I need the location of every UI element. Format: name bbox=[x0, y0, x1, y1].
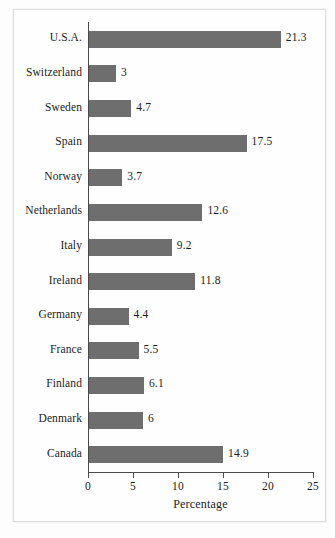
x-axis-tick bbox=[178, 473, 179, 478]
category-label: Italy bbox=[60, 239, 82, 251]
x-axis-tick-label: 15 bbox=[217, 480, 229, 492]
bar bbox=[89, 65, 116, 82]
bar-value-label: 4.7 bbox=[136, 101, 151, 113]
bar bbox=[89, 169, 122, 186]
bar bbox=[89, 342, 139, 359]
category-label: Switzerland bbox=[26, 66, 82, 78]
x-axis-tick bbox=[133, 473, 134, 478]
bar-value-label: 9.2 bbox=[177, 239, 192, 251]
x-axis-tick-label: 5 bbox=[130, 480, 136, 492]
category-label: France bbox=[50, 343, 82, 355]
category-label: Canada bbox=[47, 447, 82, 459]
bar bbox=[89, 239, 172, 256]
plot-area: 051015202521.334.717.53.712.69.211.84.45… bbox=[88, 22, 313, 472]
category-label: Finland bbox=[46, 377, 82, 389]
bar bbox=[89, 412, 143, 429]
x-axis-tick bbox=[313, 473, 314, 478]
bar bbox=[89, 204, 202, 221]
bar-chart-figure: U.S.A.SwitzerlandSwedenSpainNorwayNether… bbox=[0, 0, 335, 538]
x-axis-tick bbox=[268, 473, 269, 478]
bar-value-label: 5.5 bbox=[144, 343, 159, 355]
category-label: U.S.A. bbox=[50, 31, 82, 43]
x-axis-tick-label: 0 bbox=[85, 480, 91, 492]
bar-value-label: 6.1 bbox=[149, 377, 164, 389]
x-axis-tick-label: 10 bbox=[172, 480, 184, 492]
category-axis-labels: U.S.A.SwitzerlandSwedenSpainNorwayNether… bbox=[0, 22, 82, 472]
bar-value-label: 3 bbox=[121, 66, 127, 78]
bar-value-label: 21.3 bbox=[286, 31, 307, 43]
x-axis-tick bbox=[223, 473, 224, 478]
bar-value-label: 4.4 bbox=[134, 308, 149, 320]
x-axis-tick bbox=[88, 473, 89, 478]
category-label: Norway bbox=[44, 170, 82, 182]
bar-value-label: 12.6 bbox=[207, 204, 228, 216]
x-axis-title: Percentage bbox=[88, 497, 313, 512]
bar-value-label: 11.8 bbox=[200, 274, 221, 286]
bar bbox=[89, 273, 195, 290]
bar bbox=[89, 377, 144, 394]
x-axis-tick-label: 20 bbox=[262, 480, 274, 492]
bar bbox=[89, 135, 247, 152]
bar-value-label: 3.7 bbox=[127, 170, 142, 182]
bar-value-label: 14.9 bbox=[228, 447, 249, 459]
category-label: Netherlands bbox=[25, 204, 82, 216]
category-label: Germany bbox=[39, 308, 83, 320]
x-axis-line bbox=[88, 472, 314, 473]
category-label: Sweden bbox=[45, 101, 82, 113]
bar-value-label: 17.5 bbox=[252, 135, 273, 147]
bar bbox=[89, 308, 129, 325]
bar-value-label: 6 bbox=[148, 412, 154, 424]
bar bbox=[89, 100, 131, 117]
category-label: Ireland bbox=[49, 274, 82, 286]
category-label: Denmark bbox=[39, 412, 83, 424]
category-label: Spain bbox=[55, 135, 82, 147]
bar bbox=[89, 31, 281, 48]
bar bbox=[89, 446, 223, 463]
x-axis-tick-label: 25 bbox=[307, 480, 319, 492]
